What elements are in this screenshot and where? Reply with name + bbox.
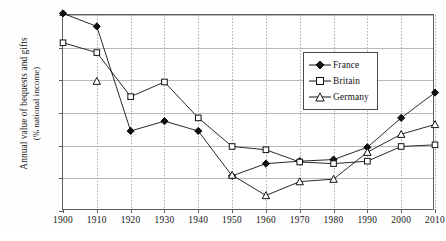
data-point bbox=[60, 40, 66, 46]
data-point bbox=[365, 158, 371, 164]
data-point bbox=[263, 147, 269, 153]
legend-label-germany: Germany bbox=[332, 92, 369, 102]
plot-area: 0%4%8%12%16%20%24%1900191019201930194019… bbox=[62, 14, 434, 210]
data-point bbox=[297, 159, 303, 165]
data-point bbox=[364, 149, 371, 156]
france-marker-icon bbox=[308, 58, 332, 72]
y-axis-title-line1: Annual value of bequests and gifts bbox=[19, 37, 29, 169]
x-axis-tick-label: 2010 bbox=[413, 215, 446, 225]
data-point bbox=[431, 89, 438, 96]
bottom-margin bbox=[0, 228, 446, 241]
data-point bbox=[432, 142, 438, 148]
y-axis-title-container: Annual value of bequests and gifts (% na… bbox=[0, 0, 44, 225]
data-point bbox=[331, 161, 337, 167]
data-point bbox=[162, 79, 168, 85]
data-point bbox=[161, 118, 168, 125]
series-france bbox=[59, 10, 438, 180]
legend-label-britain: Britain bbox=[332, 76, 360, 86]
y-axis-title-line2: (% national income) bbox=[30, 14, 42, 194]
y-axis-title: Annual value of bequests and gifts (% na… bbox=[19, 14, 42, 194]
data-point bbox=[397, 131, 404, 138]
data-point bbox=[431, 121, 438, 128]
series-layer bbox=[63, 15, 435, 211]
chart-figure: Annual value of bequests and gifts (% na… bbox=[0, 0, 446, 241]
series-germany bbox=[93, 77, 439, 198]
britain-marker-icon bbox=[308, 74, 332, 88]
data-point bbox=[229, 144, 235, 150]
data-point bbox=[262, 160, 269, 167]
data-point bbox=[195, 127, 202, 134]
cropped-caption-remnant bbox=[300, 1, 360, 8]
legend-item-germany: Germany bbox=[308, 89, 377, 105]
chart-legend: France Britain Germany bbox=[303, 52, 378, 110]
series-britain bbox=[60, 40, 438, 166]
germany-marker-icon bbox=[308, 90, 332, 104]
data-point bbox=[128, 94, 134, 100]
data-point bbox=[93, 77, 100, 84]
data-point bbox=[262, 192, 269, 199]
data-point bbox=[93, 23, 100, 30]
legend-label-france: France bbox=[332, 60, 359, 70]
data-point bbox=[195, 115, 201, 121]
series-line bbox=[63, 13, 435, 176]
data-point bbox=[398, 144, 404, 150]
x-tick-mark bbox=[435, 209, 436, 213]
legend-item-france: France bbox=[308, 57, 377, 73]
vertical-gridline bbox=[435, 15, 436, 209]
data-point bbox=[127, 127, 134, 134]
data-point bbox=[94, 50, 100, 56]
legend-item-britain: Britain bbox=[308, 73, 377, 89]
